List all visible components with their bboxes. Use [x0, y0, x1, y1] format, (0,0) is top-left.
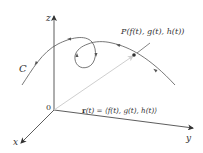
curve-label: C	[19, 63, 27, 74]
arrow-icon	[116, 43, 121, 47]
point-p	[132, 53, 136, 57]
curve-c	[22, 38, 175, 85]
origin-label: 0	[46, 103, 51, 112]
z-axis-label: z	[45, 13, 51, 23]
position-vector	[54, 56, 133, 110]
vector-equation-label: r(t) = ⟨f(t), g(t), h(t)⟩	[82, 106, 157, 115]
point-p-label: P(f(t), g(t), h(t))	[120, 27, 184, 36]
y-axis-label: y	[185, 133, 192, 143]
x-axis	[21, 110, 54, 143]
curve-direction-arrows	[34, 38, 158, 73]
arrow-icon	[153, 68, 158, 73]
point-p-leader	[137, 43, 150, 53]
space-curve-diagram: z y x 0 C P(f(t), g(t), h(t)) r(t) = ⟨f(…	[0, 0, 203, 153]
x-axis-label: x	[13, 137, 18, 147]
